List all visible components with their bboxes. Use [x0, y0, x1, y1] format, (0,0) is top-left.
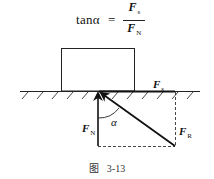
friction-force-label: Fs [153, 79, 164, 95]
angle-alpha-label: α [111, 117, 117, 128]
fr-symbol: F [179, 125, 186, 137]
force-diagram [0, 0, 214, 179]
caption-number: 3-13 [107, 163, 125, 174]
caption-prefix: 图 [89, 163, 99, 174]
block [62, 49, 135, 92]
normal-force-label: FN [82, 123, 95, 139]
fn-subscript: N [90, 129, 95, 137]
figure-caption: 图3-13 [0, 160, 214, 175]
fs-symbol: F [153, 78, 160, 90]
fs-subscript: s [161, 85, 164, 93]
resultant-force-label: FR [179, 126, 192, 142]
fr-subscript: R [187, 132, 192, 140]
fn-symbol: F [82, 122, 89, 134]
